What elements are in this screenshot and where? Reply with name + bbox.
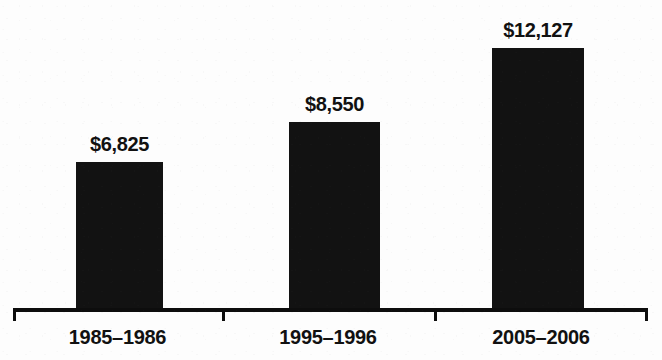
- bar-group-2: $8,550: [289, 122, 380, 311]
- x-axis-line: [13, 308, 648, 312]
- bar-group-3: $12,127: [492, 48, 584, 311]
- bar-value-label-3: $12,127: [503, 20, 573, 40]
- bar-3[interactable]: [492, 48, 584, 311]
- bar-chart: $6,825 $8,550 $12,127 1985–1986 1995–199…: [0, 0, 662, 360]
- x-axis-tick-3: [645, 311, 648, 321]
- x-axis-tick-1: [222, 311, 225, 321]
- bar-value-label-2: $8,550: [305, 94, 364, 114]
- plot-area: $6,825 $8,550 $12,127: [0, 0, 662, 311]
- x-axis-label-3: 2005–2006: [434, 326, 648, 348]
- x-axis-label-2: 1995–1996: [222, 326, 434, 348]
- bar-1[interactable]: [76, 162, 163, 311]
- x-axis-tick-2: [434, 311, 437, 321]
- bar-value-label-1: $6,825: [90, 134, 149, 154]
- bar-2[interactable]: [289, 122, 380, 311]
- x-axis-label-1: 1985–1986: [13, 326, 222, 348]
- x-axis-tick-0: [13, 311, 16, 321]
- bar-group-1: $6,825: [76, 162, 163, 311]
